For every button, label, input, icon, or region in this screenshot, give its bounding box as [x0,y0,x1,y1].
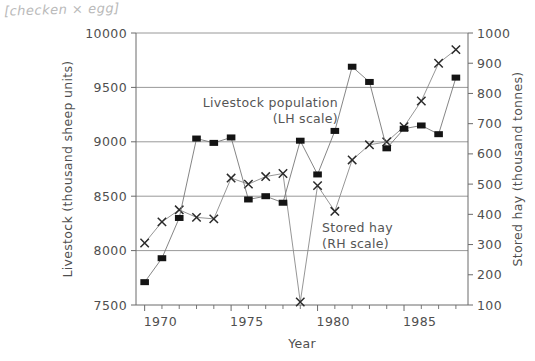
left-axis-tick-label: 7500 [94,298,127,313]
axis-frame-group [136,33,468,305]
data-point-marker [210,140,219,146]
hay-series-label-line2: (RH scale) [322,236,389,251]
data-point-marker [331,207,339,215]
data-point-marker [192,136,201,142]
data-point-marker [382,145,391,151]
data-point-marker [452,45,460,53]
ticks-group [131,33,473,311]
right-axis-tick-label: 400 [477,207,502,222]
left-axis-tick-label: 9000 [94,134,127,149]
data-point-marker [331,128,340,134]
data-point-marker [158,218,166,226]
right-axis-tick-label: 1000 [477,26,510,41]
right-axis-tick-label: 200 [477,267,502,282]
left-axis-tick-label: 8500 [94,189,127,204]
data-point-marker [452,75,461,81]
right-axis-tick-label: 900 [477,56,502,71]
right-axis-tick-label: 500 [477,177,502,192]
chart-figure: [checken × egg] 750080008500900095001000… [0,0,535,361]
data-point-marker [227,134,236,140]
data-point-marker [279,200,288,206]
data-point-marker [140,239,148,247]
chart-plot-area: 7500800085009000950010000100200300400500… [0,0,535,361]
data-point-marker [313,171,322,177]
livestock-series-label-line1: Livestock population [203,95,338,110]
data-point-marker [175,206,183,214]
data-point-marker [140,279,149,285]
data-point-marker [417,97,425,105]
data-point-marker [261,193,270,199]
right-axis-tick-label: 600 [477,146,502,161]
livestock-series-label-line2: (LH scale) [273,111,338,126]
left-axis-tick-label: 9500 [94,80,127,95]
data-point-marker [348,156,356,164]
right-axis-title: Stored hay (thousand tonnes) [510,71,525,266]
left-axis-tick-label: 10000 [85,26,127,41]
data-point-marker [348,64,357,70]
right-axis-tick-label: 700 [477,116,502,131]
data-point-marker [244,180,252,188]
right-axis-tick-label: 100 [477,298,502,313]
data-point-marker [158,255,167,261]
data-point-marker [365,79,374,85]
x-axis-title: Year [287,336,316,351]
x-axis-tick-label: 1980 [317,314,350,329]
data-point-marker [175,215,184,221]
x-axis-tick-label: 1985 [403,314,436,329]
x-axis-tick-label: 1975 [230,314,263,329]
data-point-marker [261,172,269,180]
data-point-marker [244,196,253,202]
left-axis-tick-label: 8000 [94,243,127,258]
x-axis-tick-label: 1970 [144,314,177,329]
data-point-marker [227,174,235,182]
data-point-marker [400,126,409,132]
data-point-marker [417,122,426,128]
right-axis-tick-label: 800 [477,86,502,101]
right-axis-tick-label: 300 [477,237,502,252]
data-point-marker [296,138,305,144]
left-axis-title: Livestock (thousand sheep units) [60,61,75,278]
hay-series-label-line1: Stored hay [322,220,393,235]
data-point-marker [434,59,442,67]
data-point-marker [434,131,443,137]
